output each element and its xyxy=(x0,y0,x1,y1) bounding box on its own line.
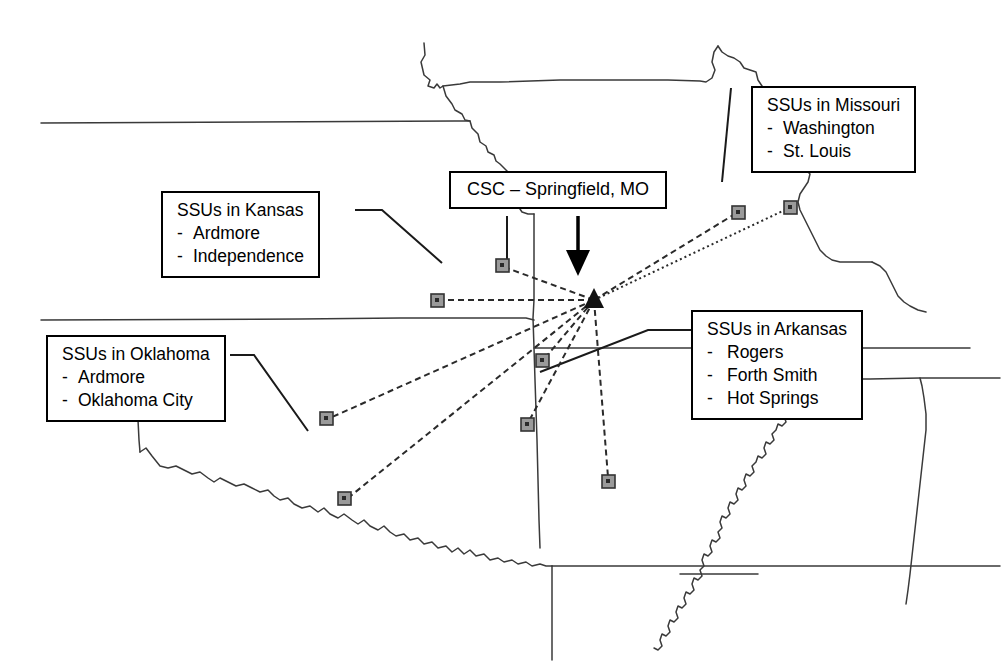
site-marker-ardmore-ok xyxy=(338,492,351,505)
spoke-line-hot-springs xyxy=(594,300,608,477)
list-item-label: Ardmore xyxy=(193,222,260,245)
site-marker-hot-springs xyxy=(602,475,615,488)
list-item: -St. Louis xyxy=(767,140,900,163)
callout-oklahoma-title: SSUs in Oklahoma xyxy=(62,343,210,366)
list-item: -Ardmore xyxy=(62,366,210,389)
list-item: -Forth Smith xyxy=(707,364,847,387)
border-mississippi-river xyxy=(654,380,802,650)
border-missouri-river-nw xyxy=(421,43,718,88)
list-item-label: Rogers xyxy=(727,341,783,364)
spoke-line-washington-mo xyxy=(594,214,735,300)
bullet-dash: - xyxy=(62,366,78,389)
bullet-dash: - xyxy=(767,117,783,140)
spoke-line-independence-ks xyxy=(504,267,594,300)
callout-kansas: SSUs in Kansas -Ardmore -Independence xyxy=(161,191,320,278)
list-item: -Rogers xyxy=(707,341,847,364)
callout-arkansas-list: -Rogers -Forth Smith -Hot Springs xyxy=(707,341,847,410)
site-marker-ardmore-ks xyxy=(431,294,444,307)
list-item: -Independence xyxy=(177,245,304,268)
spoke-line-st-louis xyxy=(594,209,787,300)
site-marker-washington-mo xyxy=(732,206,745,219)
hub-marker-csc xyxy=(584,288,604,308)
bullet-dash: - xyxy=(707,364,727,387)
list-item-label: Forth Smith xyxy=(727,364,817,387)
callout-csc: CSC – Springfield, MO xyxy=(449,171,667,209)
site-marker-forth-smith xyxy=(521,418,534,431)
border-kansas-missouri-south xyxy=(533,214,540,548)
bullet-dash: - xyxy=(707,387,727,410)
site-marker-st-louis xyxy=(784,201,797,214)
list-item: -Oklahoma City xyxy=(62,389,210,412)
list-item-label: Independence xyxy=(193,245,304,268)
border-nebraska-kansas xyxy=(41,121,470,123)
bullet-dash: - xyxy=(767,140,783,163)
diagram-canvas: CSC – Springfield, MO SSUs in Missouri -… xyxy=(0,0,1008,672)
callout-oklahoma-list: -Ardmore -Oklahoma City xyxy=(62,366,210,412)
callout-missouri-list: -Washington -St. Louis xyxy=(767,117,900,163)
list-item-label: Hot Springs xyxy=(727,387,818,410)
leader-kansas xyxy=(355,210,442,263)
spoke-line-rogers xyxy=(545,300,594,358)
bullet-dash: - xyxy=(62,389,78,412)
list-item-label: Ardmore xyxy=(78,366,145,389)
border-tennessee-west xyxy=(906,378,926,604)
callout-arkansas-title: SSUs in Arkansas xyxy=(707,318,847,341)
bullet-dash: - xyxy=(707,341,727,364)
callout-arkansas: SSUs in Arkansas -Rogers -Forth Smith -H… xyxy=(691,310,863,420)
list-item-label: Oklahoma City xyxy=(78,389,193,412)
bullet-dash: - xyxy=(177,222,193,245)
leader-arkansas xyxy=(540,330,691,372)
list-item-label: Washington xyxy=(783,117,875,140)
site-marker-oklahoma-city xyxy=(320,412,333,425)
border-missouri-arkansas-east xyxy=(872,262,926,312)
border-red-river xyxy=(140,448,552,566)
leader-missouri xyxy=(722,88,731,182)
border-kansas-oklahoma xyxy=(41,318,534,320)
spoke-line-ardmore-ok xyxy=(348,300,594,498)
callout-kansas-list: -Ardmore -Independence xyxy=(177,222,304,268)
callout-csc-title: CSC – Springfield, MO xyxy=(467,178,649,201)
bullet-dash: - xyxy=(177,245,193,268)
callout-missouri: SSUs in Missouri -Washington -St. Louis xyxy=(751,86,916,173)
list-item: -Hot Springs xyxy=(707,387,847,410)
list-item: -Ardmore xyxy=(177,222,304,245)
list-item: -Washington xyxy=(767,117,900,140)
csc-arrow xyxy=(566,216,590,276)
site-marker-rogers xyxy=(536,354,549,367)
callout-missouri-title: SSUs in Missouri xyxy=(767,94,900,117)
callout-kansas-title: SSUs in Kansas xyxy=(177,199,304,222)
list-item-label: St. Louis xyxy=(783,140,851,163)
callout-oklahoma: SSUs in Oklahoma -Ardmore -Oklahoma City xyxy=(46,335,226,422)
leader-oklahoma xyxy=(230,355,308,431)
site-marker-independence-ks xyxy=(496,259,509,272)
